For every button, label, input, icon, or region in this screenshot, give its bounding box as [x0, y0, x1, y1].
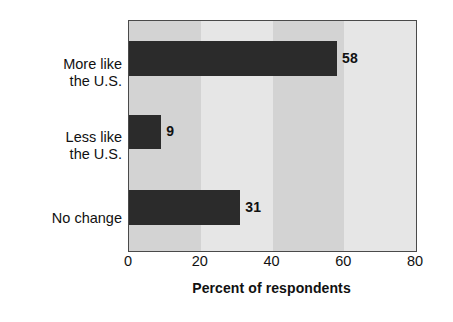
value-label-less-like-us: 9 — [166, 124, 174, 138]
category-axis-labels: More like the U.S. Less like the U.S. No… — [0, 20, 122, 250]
bar-chart: More like the U.S. Less like the U.S. No… — [0, 0, 453, 322]
value-label-no-change: 31 — [245, 200, 261, 214]
x-tick-80: 80 — [407, 254, 423, 269]
bar-more-like-us — [129, 41, 337, 76]
category-label-more-like-us: More like the U.S. — [2, 56, 122, 90]
category-label-less-like-us: Less like the U.S. — [2, 129, 122, 163]
value-label-more-like-us: 58 — [342, 51, 358, 65]
category-label-no-change: No change — [2, 210, 122, 227]
bar-less-like-us — [129, 115, 161, 149]
x-axis-ticks: 0 20 40 60 80 — [128, 254, 415, 276]
bar-no-change — [129, 190, 240, 225]
x-tick-20: 20 — [192, 254, 208, 269]
x-axis-title: Percent of respondents — [128, 280, 415, 296]
x-tick-40: 40 — [263, 254, 279, 269]
x-tick-60: 60 — [335, 254, 351, 269]
x-tick-0: 0 — [124, 254, 132, 269]
